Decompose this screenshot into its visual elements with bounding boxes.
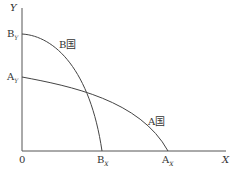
b-y-sub: Y (14, 34, 18, 41)
a-x-sub: X (169, 160, 173, 167)
a-y-sub: Y (14, 77, 18, 84)
curve-b (22, 34, 102, 151)
b-x-sub: X (104, 160, 108, 167)
ppf-diagram (0, 0, 235, 180)
a-x-intercept-label: AX (162, 155, 174, 167)
curve-a (22, 77, 168, 151)
x-axis-label: X (222, 155, 229, 165)
y-axis-label: Y (10, 3, 17, 13)
b-y-intercept-label: BY (7, 29, 18, 41)
curve-a-label: A国 (148, 117, 165, 127)
origin-label: 0 (19, 155, 25, 165)
b-x-intercept-label: BX (97, 155, 109, 167)
curve-b-label: B国 (59, 40, 76, 50)
a-y-intercept-label: AY (7, 72, 18, 84)
